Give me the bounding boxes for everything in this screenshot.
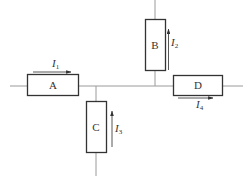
element-b: B I2 bbox=[146, 20, 179, 71]
circuit-diagram: A I1 B I2 C I3 D I4 bbox=[0, 0, 245, 180]
element-a: A I1 bbox=[28, 57, 79, 96]
current-i2-label: I2 bbox=[170, 36, 179, 50]
element-b-label: B bbox=[151, 39, 158, 51]
current-i1-label: I1 bbox=[51, 57, 60, 71]
current-i3-label: I3 bbox=[114, 122, 123, 136]
element-a-label: A bbox=[49, 79, 57, 91]
element-d-label: D bbox=[194, 79, 202, 91]
element-c-label: C bbox=[92, 121, 99, 133]
element-d: D I4 bbox=[174, 76, 223, 113]
element-c: C I3 bbox=[87, 102, 123, 153]
current-i4-label: I4 bbox=[195, 98, 204, 112]
